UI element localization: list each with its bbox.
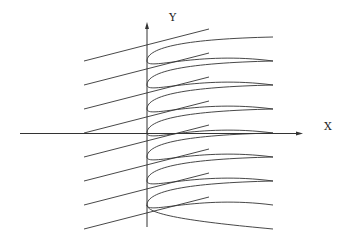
trajectory-curve xyxy=(147,37,273,64)
x-axis-arrow-icon xyxy=(296,132,303,136)
trajectory-curve xyxy=(147,205,273,229)
trajectory-curve xyxy=(147,61,273,88)
phase-portrait-plot xyxy=(0,0,347,246)
diagram-canvas: Y X xyxy=(0,0,347,246)
trajectory-curve xyxy=(147,181,273,208)
y-axis-label: Y xyxy=(169,11,176,24)
trajectory-curve xyxy=(147,109,273,136)
y-axis-arrow-icon xyxy=(145,22,149,29)
trajectory-curve xyxy=(147,157,273,184)
trajectory-curve xyxy=(147,133,273,160)
x-axis-label: X xyxy=(324,120,332,133)
trajectory-curve xyxy=(147,85,273,112)
